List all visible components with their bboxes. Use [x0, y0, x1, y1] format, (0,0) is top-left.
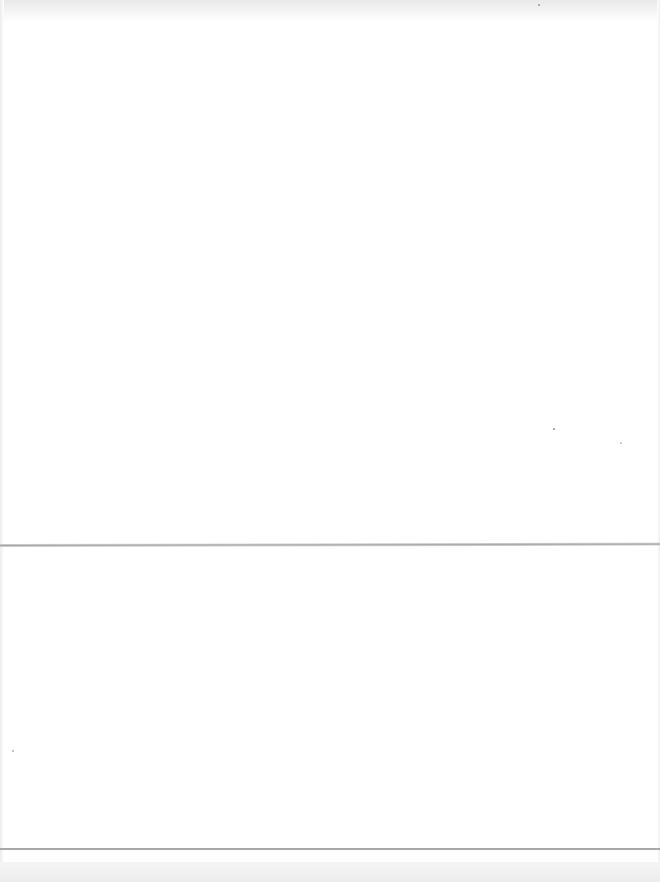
scan-speck [538, 4, 540, 6]
scan-speck [553, 428, 555, 430]
fold-line [0, 543, 660, 547]
scan-left-edge [0, 0, 4, 882]
scan-bottom-edge [0, 862, 660, 882]
scan-top-edge [0, 0, 660, 22]
scan-speck [12, 750, 14, 752]
scan-speck [620, 442, 622, 444]
bottom-rule-1 [0, 848, 660, 850]
